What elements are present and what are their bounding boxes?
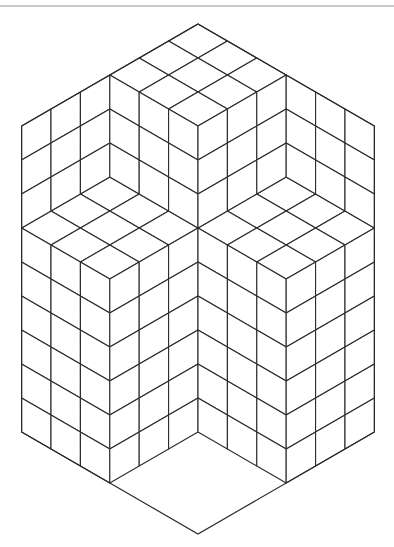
isometric-cubes-figure [0,0,394,547]
cube-faces [22,24,375,483]
